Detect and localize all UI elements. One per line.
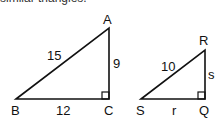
vertex-b-label: B bbox=[11, 103, 20, 118]
side-ab-label: 15 bbox=[47, 48, 61, 63]
side-bc-label: 12 bbox=[56, 103, 70, 118]
right-angle-marker-q bbox=[198, 92, 205, 99]
side-sq-label: r bbox=[172, 103, 177, 118]
side-rs-label: 10 bbox=[161, 59, 175, 74]
triangle-abc: A B C 15 9 12 bbox=[11, 12, 120, 118]
triangle-rsq: R S Q 10 s r bbox=[136, 33, 215, 118]
vertex-r-label: R bbox=[199, 33, 208, 48]
vertex-s-label: S bbox=[136, 103, 145, 118]
right-angle-marker-c bbox=[102, 92, 109, 99]
side-ac-label: 9 bbox=[113, 56, 120, 71]
vertex-q-label: Q bbox=[199, 103, 209, 118]
side-rq-label: s bbox=[208, 67, 215, 82]
vertex-c-label: C bbox=[104, 103, 113, 118]
vertex-a-label: A bbox=[103, 12, 112, 27]
similar-triangles-diagram: A B C 15 9 12 R S Q 10 s r bbox=[0, 0, 219, 123]
